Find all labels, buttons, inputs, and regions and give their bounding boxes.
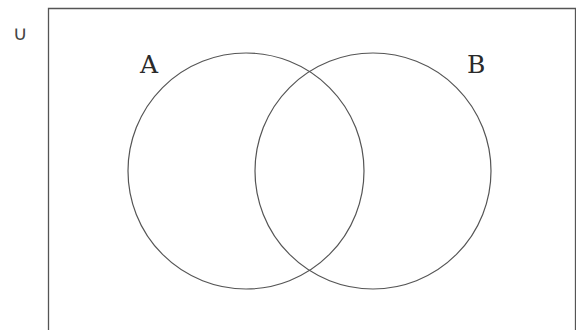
- universe-symbol: ∪: [13, 21, 28, 45]
- set-a-circle: [128, 53, 364, 289]
- venn-diagram: ∪ A B: [0, 0, 576, 330]
- set-b-circle: [255, 53, 491, 289]
- set-b-label: B: [467, 50, 485, 79]
- set-a-label: A: [139, 50, 159, 79]
